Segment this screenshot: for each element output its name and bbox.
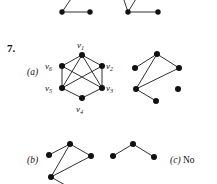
graph-node-v4 xyxy=(79,95,85,101)
vertex-label-v3: v3 xyxy=(106,83,113,94)
vertex-label-v5: v5 xyxy=(45,83,52,94)
top-partial-graph-left xyxy=(59,0,92,15)
graph-node xyxy=(154,51,160,57)
graph-a-left-labeled: v1 v2 v3 v4 v5 v6 xyxy=(45,40,113,115)
figure-page: 7. (a) (b) (c) No xyxy=(0,0,217,184)
graph-node-v3 xyxy=(99,85,105,91)
graph-node-v2 xyxy=(99,63,105,69)
vertex-label-v2: v2 xyxy=(106,61,113,72)
edge xyxy=(70,144,91,156)
graph-node-v6 xyxy=(59,63,65,69)
edge-v3-v4 xyxy=(82,88,102,98)
edge xyxy=(135,54,157,68)
graph-node-isolated xyxy=(175,86,181,92)
edge xyxy=(133,144,154,157)
graph-node xyxy=(46,152,52,158)
graph-node-v1 xyxy=(79,52,85,58)
graph-node xyxy=(155,9,160,14)
edge xyxy=(113,144,133,156)
graph-node xyxy=(67,141,73,147)
graph-figure-canvas: v1 v2 v3 v4 v5 v6 xyxy=(0,0,217,184)
graph-node xyxy=(130,141,136,147)
graph-b-right xyxy=(110,141,157,160)
graph-b-left xyxy=(46,141,94,184)
edge xyxy=(157,54,179,68)
top-partial-graph-right xyxy=(122,0,161,15)
graph-node xyxy=(125,9,130,14)
graph-a-right xyxy=(132,51,182,104)
vertex-label-v6: v6 xyxy=(45,61,53,72)
graph-node xyxy=(153,98,159,104)
graph-node xyxy=(110,153,116,159)
edge-v5-v4 xyxy=(62,88,82,98)
edge xyxy=(51,177,72,184)
graph-node xyxy=(133,86,139,92)
graph-node-v5 xyxy=(59,85,65,91)
edge xyxy=(136,89,156,101)
vertex-label-v4: v4 xyxy=(76,104,83,115)
graph-node xyxy=(59,9,64,14)
graph-node xyxy=(132,65,138,71)
graph-node xyxy=(48,174,54,180)
graph-node xyxy=(151,154,157,160)
graph-node xyxy=(176,65,182,71)
vertex-label-v1: v1 xyxy=(77,40,84,51)
graph-node xyxy=(88,153,94,159)
graph-node xyxy=(87,9,92,14)
